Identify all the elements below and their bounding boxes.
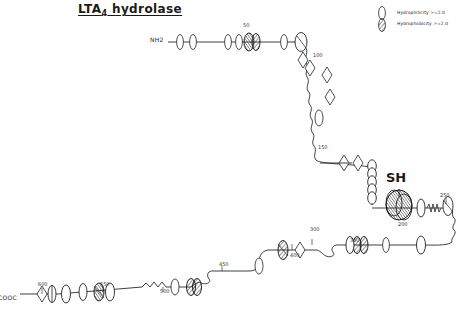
- residue-tick-450: 450: [219, 261, 229, 267]
- residue-tick-350: 350: [350, 237, 360, 243]
- residue-tick-50: 50: [243, 22, 249, 28]
- sh-residue-cluster: [386, 189, 412, 220]
- protein-backbone-svg: [0, 0, 466, 317]
- residue-tick-500: 500: [160, 288, 170, 294]
- residue-markers-top: [177, 33, 307, 52]
- residue-markers-150: [315, 110, 323, 126]
- diagram-canvas: LTA4 hydrolase Hydrophilicity >=2.0 Hydr…: [0, 0, 466, 317]
- residue-markers-bead-column: [320, 155, 376, 204]
- residue-tick-550: 550: [100, 281, 110, 287]
- legend-symbol-hydrophilicity: [379, 7, 386, 20]
- residue-markers-100: [298, 52, 335, 105]
- legend-symbol-hydrophobicity: [379, 19, 386, 32]
- residue-tick-600: 600: [38, 281, 48, 287]
- residue-tick-100: 100: [313, 52, 323, 58]
- residue-markers-600: [37, 285, 71, 303]
- residue-tick-150: 150: [318, 144, 328, 150]
- residue-tick-200: 200: [398, 221, 408, 227]
- residue-tick-400: 400: [290, 252, 300, 258]
- residue-markers-250: [417, 197, 453, 218]
- residue-tick-300: 300: [310, 226, 320, 232]
- residue-tick-250: 250: [440, 192, 450, 198]
- backbone-chain: [20, 42, 455, 294]
